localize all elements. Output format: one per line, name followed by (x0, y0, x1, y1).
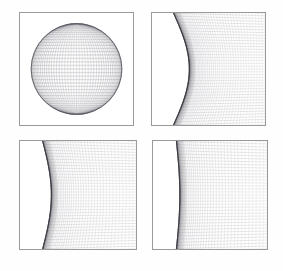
panel-limb-zoom-2[interactable] (19, 140, 137, 250)
limb-mesh-plot-1 (152, 13, 265, 125)
sphere-mesh-plot (20, 13, 133, 125)
figure-root (0, 0, 283, 271)
limb-mesh-plot-3 (153, 141, 267, 249)
panel-full-sphere[interactable] (19, 12, 134, 126)
panel-limb-zoom-3[interactable] (152, 140, 268, 250)
limb-mesh-plot-2 (20, 141, 136, 249)
panel-limb-zoom-1[interactable] (151, 12, 266, 126)
